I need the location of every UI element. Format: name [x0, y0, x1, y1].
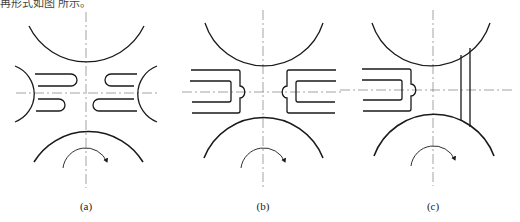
slot-lower-left [36, 99, 65, 111]
panel-b [182, 10, 342, 188]
bar-inner-left [190, 81, 231, 102]
top-roll-arc [29, 26, 144, 62]
left-roll-arc [15, 66, 34, 122]
bottom-roll-arc [374, 114, 494, 156]
bottom-roll-arc [204, 118, 323, 158]
top-roll-arc [205, 23, 323, 66]
slot-lower-right [93, 99, 137, 111]
panel-a [15, 12, 158, 188]
roll-pass-diagram [0, 0, 520, 222]
slot-upper-right [105, 74, 137, 86]
panel-label-c: (c) [427, 200, 439, 212]
bar-outer-left [191, 70, 245, 113]
right-roll-arc [138, 66, 157, 122]
bottom-roll-arc [34, 132, 143, 162]
panel-label-b: (b) [257, 200, 270, 212]
bar-inner-right [296, 81, 336, 102]
panel-c [340, 10, 512, 186]
bar-outer-right [282, 70, 336, 113]
top-roll-arc [372, 23, 490, 66]
panel-label-a: (a) [80, 200, 92, 212]
slot-upper-left [35, 74, 77, 86]
rotation-arrow [63, 148, 107, 168]
